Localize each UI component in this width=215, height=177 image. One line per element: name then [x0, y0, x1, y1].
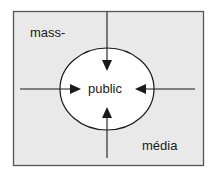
label-media: média [142, 139, 177, 152]
label-public: public [88, 82, 122, 95]
label-mass: mass- [30, 26, 65, 39]
